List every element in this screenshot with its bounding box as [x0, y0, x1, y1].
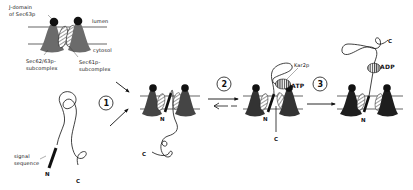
kar2p-pointer — [287, 68, 298, 79]
arrow-from-legend — [116, 82, 129, 92]
stage3-polypeptide-lumen — [342, 38, 388, 64]
stage-3-translocon — [337, 38, 403, 117]
stage1-ball-right — [181, 84, 189, 92]
label-j-domain-2: of Sec63p — [9, 11, 35, 18]
label-j-domain-1: J-domain — [8, 4, 32, 10]
arrow-backward-2 — [214, 103, 228, 109]
precursor-protein — [40, 92, 86, 168]
stage1-c-terminus: C — [142, 151, 146, 157]
stage3-adp-label: ADP — [380, 63, 395, 70]
polypeptide-chain — [57, 92, 86, 165]
step-2-number: 2 — [222, 80, 228, 89]
step-2-marker: 2 — [208, 77, 238, 109]
stage3-kar2p — [368, 63, 381, 73]
stage1-n-terminus: N — [160, 116, 165, 122]
precursor-n-terminus: N — [45, 171, 50, 177]
arrow-from-precursor — [110, 109, 128, 126]
j-domain-pointer — [48, 15, 52, 19]
label-lumen: lumen — [92, 18, 108, 24]
stage2-c-terminus: C — [274, 136, 278, 142]
precursor-c-terminus: C — [76, 178, 80, 184]
step-1-marker: 1 — [99, 82, 129, 126]
j-domain-ball-right — [74, 17, 83, 26]
label-sec62-63-1: Sec62/63p- — [26, 58, 56, 65]
signal-pointer — [40, 156, 46, 159]
stage3-c-terminus: C — [388, 38, 392, 44]
stage2-kar2p-label: Kar2p — [294, 62, 309, 69]
stage3-ball-right — [383, 84, 391, 92]
step-3-number: 3 — [318, 80, 324, 89]
label-cytosol: cytosol — [93, 47, 112, 54]
label-signal-2: sequence — [14, 160, 39, 167]
label-sec62-63-2: subcomplex — [26, 65, 58, 72]
stage3-polypeptide-stem — [369, 72, 373, 96]
label-sec61-2: subcomplex — [79, 66, 111, 73]
label-sec61-1: Sec61p- — [79, 59, 100, 66]
translocation-diagram: J-domain of Sec63p lumen cytosol Sec62/6… — [0, 0, 413, 190]
stage2-ball-left — [252, 84, 260, 92]
stage-2-translocon — [243, 63, 303, 132]
label-signal-1: signal — [14, 153, 30, 160]
stage1-ball-left — [149, 84, 157, 92]
signal-sequence-bar — [49, 148, 56, 168]
stage3-ball-left — [348, 84, 356, 92]
stage3-n-terminus: N — [361, 117, 366, 123]
step-3-marker: 3 — [307, 77, 335, 104]
stage2-atp-label: ATP — [291, 82, 305, 89]
stage-1-translocon — [140, 84, 200, 157]
j-domain-ball-left — [50, 18, 59, 27]
stage2-kar2p — [276, 79, 291, 89]
step-1-number: 1 — [104, 99, 110, 108]
stage2-n-terminus: N — [263, 116, 268, 122]
